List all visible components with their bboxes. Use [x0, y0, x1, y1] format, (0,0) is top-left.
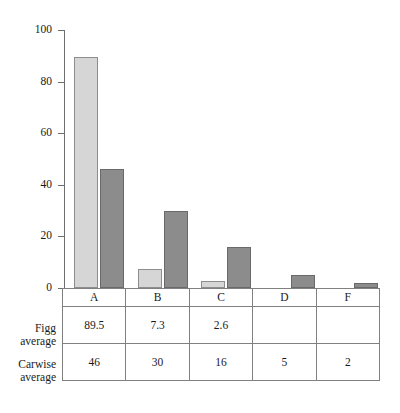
y-axis-tick-label-20: 20 [12, 230, 52, 242]
table-header-d: D [253, 289, 316, 307]
table-row-label-figg: Figg average [0, 322, 56, 348]
bar-figg-b [138, 269, 162, 288]
bar-group-a [64, 30, 128, 288]
table-row: 89.5 7.3 2.6 [63, 307, 380, 344]
table-cell-carwise-f: 2 [316, 344, 379, 381]
table-row-label-carwise-line2: average [0, 371, 56, 384]
table-row: 46 30 16 5 2 [63, 344, 380, 381]
table-header-row: A B C D F [63, 289, 380, 307]
table-header-c: C [189, 289, 252, 307]
table-row-label-carwise: Carwise average [0, 358, 56, 384]
table-row-label-figg-line1: Figg [0, 322, 56, 335]
bar-chart-figure: 100 80 60 40 20 0 [0, 0, 400, 413]
bar-group-d [255, 30, 319, 288]
table-header-f: F [316, 289, 379, 307]
bar-carwise-a [100, 169, 124, 288]
bar-carwise-c [227, 247, 251, 288]
table-cell-figg-c: 2.6 [189, 307, 252, 344]
y-axis-tick-label-0: 0 [12, 282, 52, 294]
table-cell-figg-f [316, 307, 379, 344]
data-table: A B C D F 89.5 7.3 2.6 46 30 16 5 2 [62, 288, 380, 381]
table-cell-carwise-c: 16 [189, 344, 252, 381]
table-header-b: B [126, 289, 189, 307]
bar-carwise-d [291, 275, 315, 288]
y-axis-tick-label-60: 60 [12, 127, 52, 139]
table-header-a: A [63, 289, 126, 307]
table-row-label-figg-line2: average [0, 335, 56, 348]
y-axis-tick-label-100: 100 [12, 24, 52, 36]
bar-figg-a [74, 57, 98, 288]
y-axis-tick-label-80: 80 [12, 76, 52, 88]
table-cell-carwise-a: 46 [63, 344, 126, 381]
plot-area [64, 30, 380, 288]
bar-carwise-b [164, 211, 188, 288]
y-axis-tick-label-40: 40 [12, 179, 52, 191]
table-cell-figg-d [253, 307, 316, 344]
table-row-label-carwise-line1: Carwise [0, 358, 56, 371]
table-cell-figg-b: 7.3 [126, 307, 189, 344]
bar-group-f [318, 30, 382, 288]
table-cell-carwise-d: 5 [253, 344, 316, 381]
bar-figg-c [201, 281, 225, 288]
bar-group-b [128, 30, 192, 288]
bar-group-c [191, 30, 255, 288]
table-cell-figg-a: 89.5 [63, 307, 126, 344]
table-cell-carwise-b: 30 [126, 344, 189, 381]
